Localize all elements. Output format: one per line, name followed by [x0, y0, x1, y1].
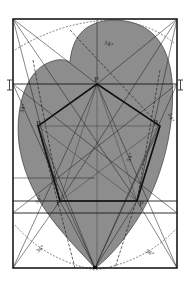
vertex-label-top: P — [94, 76, 99, 84]
vertex-label-bottom-right: P — [139, 200, 144, 208]
vertex-label-right: P — [153, 119, 158, 127]
angle-label-36-right: 36° — [145, 248, 156, 258]
vertex-label-bottom-left: P — [56, 199, 61, 207]
vertex-label-left: P — [36, 120, 41, 128]
pentagon-construction-diagram: P P P P P 36° 36° 54° 54° 54° 54° 54° — [0, 0, 190, 286]
bottom-apex-marker — [93, 266, 97, 269]
